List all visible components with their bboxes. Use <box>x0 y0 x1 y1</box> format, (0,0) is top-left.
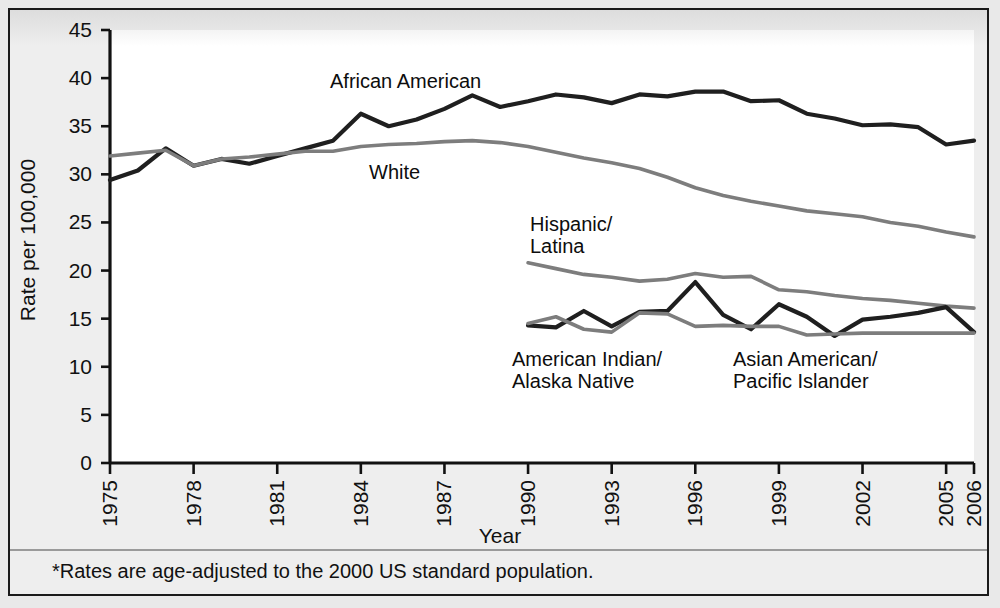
x-tick-label: 1978 <box>183 480 204 527</box>
x-tick-label: 2006 <box>963 480 984 527</box>
figure-panel: 051015202530354045 197519781981198419871… <box>0 0 1000 608</box>
y-tick-label: 0 <box>52 452 92 473</box>
x-tick-label: 2005 <box>935 480 956 527</box>
series-line <box>528 263 974 308</box>
white-label: White <box>369 161 420 183</box>
y-tick-label: 20 <box>52 260 92 281</box>
y-tick-label: 45 <box>52 19 92 40</box>
x-tick-label: 1999 <box>768 480 789 527</box>
x-tick-label: 1987 <box>433 480 454 527</box>
line-chart <box>0 0 1000 608</box>
african-american-label: African American <box>330 70 481 92</box>
asian-american-label: Asian American/ Pacific Islander <box>733 348 878 393</box>
x-tick-label: 1996 <box>684 480 705 527</box>
y-tick-label: 30 <box>52 163 92 184</box>
y-tick-label: 40 <box>52 67 92 88</box>
x-tick-label: 1981 <box>266 480 287 527</box>
american-indian-label: American Indian/ Alaska Native <box>512 348 662 393</box>
y-tick-label: 35 <box>52 115 92 136</box>
x-tick-label: 1990 <box>517 480 538 527</box>
series-line <box>110 92 974 181</box>
x-tick-label: 2002 <box>852 480 873 527</box>
y-axis-title: Rate per 100,000 <box>16 150 40 330</box>
hispanic-latina-label: Hispanic/ Latina <box>530 213 612 258</box>
x-tick-label: 1984 <box>350 480 371 527</box>
y-tick-label: 25 <box>52 211 92 232</box>
y-tick-label: 10 <box>52 356 92 377</box>
footnote-text: *Rates are age-adjusted to the 2000 US s… <box>52 560 593 583</box>
y-tick-label: 15 <box>52 308 92 329</box>
x-axis-title: Year <box>0 524 1000 548</box>
x-tick-label: 1975 <box>99 480 120 527</box>
x-tick-label: 1993 <box>601 480 622 527</box>
y-tick-label: 5 <box>52 404 92 425</box>
